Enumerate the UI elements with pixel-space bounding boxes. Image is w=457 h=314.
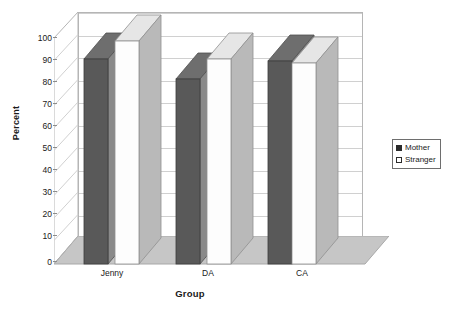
y-tick-40-label: 40 [43,165,52,175]
x-tick-da: DA [178,268,238,278]
bar-ca-stranger [292,37,338,265]
plot-area [0,0,457,314]
y-tick-20: 20 [22,210,52,218]
y-tick-90: 90 [22,56,52,64]
x-tick-ca-label: CA [296,268,308,278]
y-tick-0-label: 0 [47,257,52,267]
y-tick-mark [53,261,57,262]
y-tick-mark [53,169,57,170]
y-tick-mark [53,37,57,38]
y-tick-100-label: 100 [38,33,52,43]
y-tick-mark [53,125,57,126]
x-tick-jenny-label: Jenny [101,268,124,278]
y-tick-100: 100 [22,34,52,42]
legend-label-mother: Mother [405,143,430,153]
y-tick-mark [53,235,57,236]
y-tick-80-label: 80 [43,77,52,87]
legend-swatch-mother [396,145,402,151]
chart-left-wall [54,12,78,262]
y-tick-20-label: 20 [43,209,52,219]
y-tick-90-label: 90 [43,55,52,65]
y-tick-30: 30 [22,188,52,196]
y-tick-30-label: 30 [43,187,52,197]
y-tick-10: 10 [22,232,52,240]
chart-legend: Mother Stranger [392,139,441,169]
y-tick-70-label: 70 [43,99,52,109]
y-tick-50: 50 [22,144,52,152]
y-tick-60-label: 60 [43,121,52,131]
legend-item-stranger[interactable]: Stranger [396,155,436,165]
y-tick-mark [53,213,57,214]
x-tick-da-label: DA [202,268,214,278]
y-axis-title: Percent [11,83,21,163]
legend-swatch-stranger [396,157,402,163]
y-tick-50-label: 50 [43,143,52,153]
x-tick-jenny: Jenny [82,268,142,278]
legend-item-mother[interactable]: Mother [396,143,436,153]
y-tick-mark [53,147,57,148]
y-tick-mark [53,59,57,60]
y-tick-0: 0 [22,258,52,266]
x-axis-title: Group [0,288,380,299]
bar-da-stranger [207,33,253,265]
y-tick-60: 60 [22,122,52,130]
y-tick-10-label: 10 [43,231,52,241]
bar-chart: 100 90 80 70 60 50 40 30 20 10 0 [0,0,457,314]
y-tick-80: 80 [22,78,52,86]
bar-jenny-stranger [115,15,161,265]
y-tick-mark [53,81,57,82]
x-tick-ca: CA [272,268,332,278]
y-tick-mark [53,191,57,192]
y-tick-40: 40 [22,166,52,174]
gridline-100 [79,13,362,14]
legend-label-stranger: Stranger [405,155,436,165]
y-tick-mark [53,103,57,104]
y-tick-70: 70 [22,100,52,108]
